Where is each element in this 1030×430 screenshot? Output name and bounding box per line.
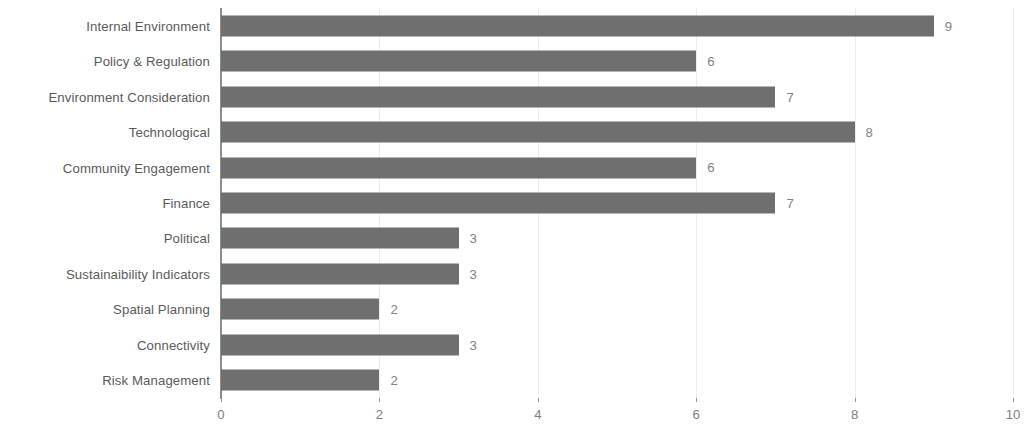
x-tick-mark	[1013, 398, 1014, 402]
x-tick-mark	[379, 398, 380, 402]
bar-value-label: 2	[390, 374, 397, 387]
bar-value-label: 6	[707, 161, 714, 174]
bar-group: 6	[221, 51, 715, 72]
bar-group: 9	[221, 15, 952, 36]
bar-value-label: 3	[470, 232, 477, 245]
bar-group: 2	[221, 370, 398, 391]
bar-row: Spatial Planning2	[221, 292, 1013, 327]
bar-value-label: 9	[945, 19, 952, 32]
bar	[221, 228, 459, 249]
x-axis: 0246810	[221, 398, 1013, 430]
bar-row: Technological8	[221, 114, 1013, 149]
x-tick-label: 6	[693, 407, 700, 422]
bar-group: 8	[221, 122, 873, 143]
bar-row: Environment Consideration7	[221, 79, 1013, 114]
bar	[221, 15, 934, 36]
bar-value-label: 7	[786, 196, 793, 209]
bar-row: Community Engagement6	[221, 150, 1013, 185]
x-tick-mark	[855, 398, 856, 402]
x-tick-label: 2	[376, 407, 383, 422]
bar-value-label: 3	[470, 267, 477, 280]
category-label: Spatial Planning	[0, 302, 210, 317]
bar-value-label: 3	[470, 338, 477, 351]
bar-row: Political3	[221, 221, 1013, 256]
x-tick-label: 10	[1006, 407, 1021, 422]
bar-row: Risk Management2	[221, 363, 1013, 398]
bar-chart: Internal Environment9Policy & Regulation…	[0, 0, 1030, 430]
x-tick-label: 4	[534, 407, 541, 422]
bar-group: 7	[221, 192, 794, 213]
bar	[221, 334, 459, 355]
x-tick-mark	[696, 398, 697, 402]
bar	[221, 192, 775, 213]
bar-group: 6	[221, 157, 715, 178]
plot-area: Internal Environment9Policy & Regulation…	[221, 8, 1013, 398]
gridline	[1013, 8, 1014, 398]
bar	[221, 263, 459, 284]
x-tick-mark	[538, 398, 539, 402]
category-label: Community Engagement	[0, 160, 210, 175]
bar-group: 3	[221, 228, 477, 249]
category-label: Internal Environment	[0, 18, 210, 33]
bar	[221, 86, 775, 107]
bar-value-label: 2	[390, 303, 397, 316]
bar	[221, 157, 696, 178]
bar-group: 3	[221, 263, 477, 284]
bar	[221, 122, 855, 143]
bar-row: Connectivity3	[221, 327, 1013, 362]
bar-value-label: 7	[786, 90, 793, 103]
bar-value-label: 6	[707, 55, 714, 68]
category-label: Connectivity	[0, 337, 210, 352]
bar-value-label: 8	[866, 125, 873, 138]
bar-row: Internal Environment9	[221, 8, 1013, 43]
bar-group: 7	[221, 86, 794, 107]
bar-row: Policy & Regulation6	[221, 43, 1013, 78]
x-tick-label: 0	[217, 407, 224, 422]
category-label: Environment Consideration	[0, 89, 210, 104]
bar	[221, 51, 696, 72]
category-label: Policy & Regulation	[0, 54, 210, 69]
bar-row: Sustainaibility Indicators3	[221, 256, 1013, 291]
category-label: Finance	[0, 195, 210, 210]
category-label: Sustainaibility Indicators	[0, 266, 210, 281]
x-tick-mark	[221, 398, 222, 402]
category-label: Political	[0, 231, 210, 246]
x-tick-label: 8	[851, 407, 858, 422]
category-label: Technological	[0, 125, 210, 140]
bar	[221, 299, 379, 320]
bar-group: 2	[221, 299, 398, 320]
category-label: Risk Management	[0, 373, 210, 388]
bar-group: 3	[221, 334, 477, 355]
bar-row: Finance7	[221, 185, 1013, 220]
bar	[221, 370, 379, 391]
